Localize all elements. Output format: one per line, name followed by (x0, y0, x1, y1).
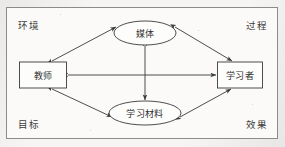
node-label-materials: 学习材料 (126, 107, 163, 120)
node-label-teacher: 教师 (34, 69, 53, 82)
scan-speck (198, 30, 199, 31)
scan-speck (252, 104, 253, 105)
edge-materials-learner (180, 89, 231, 117)
node-label-media: 媒体 (136, 27, 155, 40)
edge-teacher-materials (52, 89, 112, 117)
diagram-screenshot: 环境 过程 目标 效果 媒体 教师 学习者 学习材料 (0, 0, 285, 147)
node-label-learner: 学习者 (226, 69, 254, 82)
edge-media-learner (175, 27, 232, 61)
corner-label-process: 过程 (246, 18, 267, 32)
edge-teacher-media (52, 27, 116, 61)
corner-label-environment: 环境 (18, 18, 39, 32)
corner-label-goals: 目标 (18, 117, 39, 131)
corner-label-effects: 效果 (246, 117, 267, 131)
